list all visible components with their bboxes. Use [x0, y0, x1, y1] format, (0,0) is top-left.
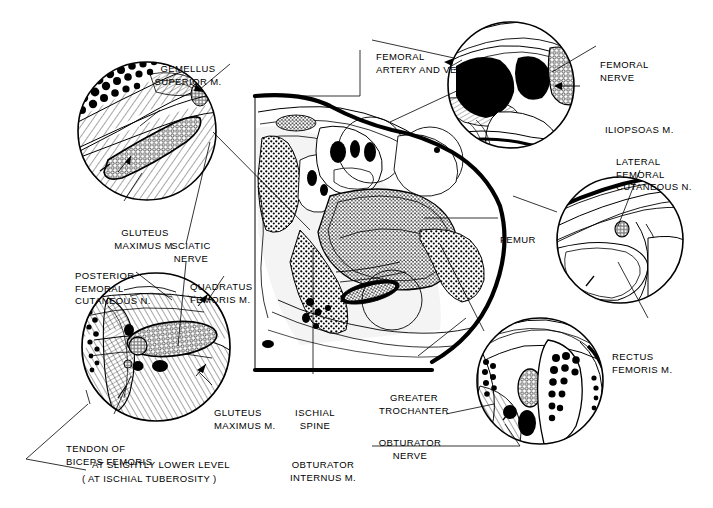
inset-gluteal-sciatic: [78, 58, 218, 200]
inset-femoral-vessels: [448, 22, 580, 148]
leader-caption: [26, 404, 88, 459]
leader-quadratus-femoris: [208, 276, 224, 300]
leader-inset2-edge: [86, 390, 90, 404]
leader-caption-2: [26, 459, 86, 470]
inset-obturator: [477, 318, 616, 444]
leader-femoral-artery-vein-a: [372, 40, 454, 58]
illustration-canvas: [0, 0, 713, 508]
inset-lateral-cutaneous: [557, 175, 684, 306]
leader-gemellus-superior: [199, 64, 230, 90]
leader-inset4-link: [513, 196, 557, 212]
inset-ischial-level: [82, 273, 236, 421]
leader-box-artery-vein: [264, 50, 360, 96]
anatomy-figure: FEMORAL ARTERY AND VEIN GEMELLUS SUPERIO…: [0, 0, 713, 508]
